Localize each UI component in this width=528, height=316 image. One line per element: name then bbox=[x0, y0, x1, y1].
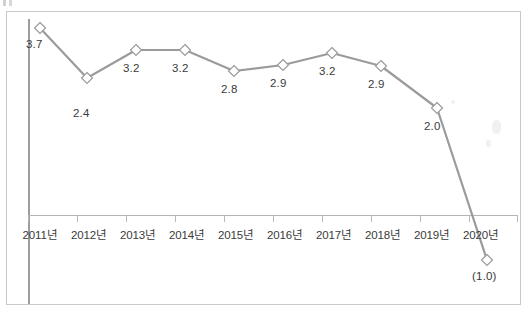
chart-screenshot: 3.7 2.4 3.2 3.2 2.8 2.9 3.2 2.9 2.0 (1.0… bbox=[0, 0, 528, 316]
x-axis-category-label: 2013년 bbox=[111, 226, 165, 242]
x-axis-category-label: 2014년 bbox=[160, 226, 214, 242]
line-series-svg bbox=[0, 0, 528, 316]
data-label: 2.0 bbox=[424, 120, 441, 132]
x-axis-category-label: 2020년 bbox=[454, 226, 508, 242]
data-label: 2.9 bbox=[270, 77, 287, 89]
data-label: 3.7 bbox=[26, 38, 43, 50]
x-axis-category-label: 2017년 bbox=[307, 226, 361, 242]
x-axis-category-label: 2011년 bbox=[13, 226, 67, 242]
x-axis-category-label: 2019년 bbox=[405, 226, 459, 242]
x-axis-category-label: 2012년 bbox=[62, 226, 116, 242]
data-label: 3.2 bbox=[172, 62, 189, 74]
data-label: 3.2 bbox=[123, 62, 140, 74]
data-point-marker bbox=[482, 255, 493, 266]
data-label: 3.2 bbox=[319, 65, 336, 77]
x-axis-category-label: 2015년 bbox=[209, 226, 263, 242]
data-label: (1.0) bbox=[472, 270, 497, 282]
data-label: 2.9 bbox=[368, 78, 385, 90]
data-point-marker bbox=[327, 48, 338, 59]
x-axis-category-label: 2016년 bbox=[258, 226, 312, 242]
data-point-marker bbox=[278, 60, 289, 71]
data-label: 2.8 bbox=[221, 83, 238, 95]
data-label: 2.4 bbox=[73, 107, 90, 119]
data-point-marker bbox=[229, 66, 240, 77]
data-point-marker bbox=[180, 45, 191, 56]
x-axis-category-label: 2018년 bbox=[356, 226, 410, 242]
data-point-marker bbox=[131, 45, 142, 56]
